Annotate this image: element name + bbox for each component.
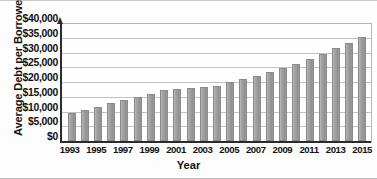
bar: [107, 103, 115, 141]
y-axis-tick-label: $0: [6, 131, 58, 142]
bar-slot: [197, 23, 210, 141]
bar-slot: [158, 23, 171, 141]
bar-slot: [210, 23, 223, 141]
y-axis-tick-label: $15,000: [6, 86, 58, 97]
bar: [147, 94, 155, 141]
bar-slot: [329, 23, 342, 141]
x-tick-slot: 2003: [196, 144, 209, 158]
y-axis-tick-label: $40,000: [6, 13, 58, 24]
bar: [226, 82, 234, 141]
bar-slot: [224, 23, 237, 141]
bar-slot: [65, 23, 78, 141]
bar: [81, 110, 89, 141]
x-tick-slot: 1993: [63, 144, 76, 158]
bar-slot: [184, 23, 197, 141]
x-tick-slot: 2005: [223, 144, 236, 158]
bar-slot: [171, 23, 184, 141]
bar-slot: [91, 23, 104, 141]
x-tick-slot: 2015: [356, 144, 369, 158]
bar: [187, 88, 195, 141]
bar: [160, 90, 168, 141]
bar: [332, 48, 340, 141]
y-axis-tick-label: $35,000: [6, 27, 58, 38]
x-axis-tick-label: 2015: [352, 144, 372, 155]
bar: [292, 64, 300, 141]
bar: [173, 89, 181, 141]
y-axis-tick-label: $30,000: [6, 42, 58, 53]
bar-slot: [316, 23, 329, 141]
x-tick-slot: 2009: [276, 144, 289, 158]
bar: [253, 76, 261, 141]
bar: [94, 107, 102, 142]
bar-slot: [237, 23, 250, 141]
y-axis-tick-label: $5,000: [6, 116, 58, 127]
y-axis-tick-labels: $40,000$35,000$30,000$25,000$20,000$15,0…: [6, 18, 58, 144]
bar-slot: [250, 23, 263, 141]
bar: [306, 59, 314, 141]
bar: [239, 79, 247, 141]
x-tick-slot: 2007: [249, 144, 262, 158]
x-tick-slot: 1995: [90, 144, 103, 158]
x-tick-slot: 1999: [143, 144, 156, 158]
bar-slot: [263, 23, 276, 141]
x-tick-slot: 2011: [302, 144, 315, 158]
bar-slot: [105, 23, 118, 141]
bar: [213, 86, 221, 141]
bar: [345, 43, 353, 141]
bar: [134, 97, 142, 141]
bar: [68, 113, 76, 141]
y-axis-tick-label: $10,000: [6, 101, 58, 112]
bar: [279, 68, 287, 141]
y-axis-tick-label: $20,000: [6, 72, 58, 83]
x-tick-slot: 1997: [116, 144, 129, 158]
bar: [358, 37, 366, 141]
chart-figure: Average Debt per Borrower $40,000$35,000…: [0, 0, 377, 179]
bar-slot: [131, 23, 144, 141]
bar: [200, 87, 208, 141]
bar-series: [62, 23, 372, 141]
x-axis-title: Year: [0, 159, 377, 171]
bar-slot: [343, 23, 356, 141]
bar-slot: [277, 23, 290, 141]
bar: [266, 72, 274, 141]
plot-area: [60, 23, 372, 143]
y-axis-arrow-icon: [57, 17, 63, 24]
bar-slot: [290, 23, 303, 141]
bar-slot: [303, 23, 316, 141]
bar-slot: [78, 23, 91, 141]
bar-slot: [118, 23, 131, 141]
bar: [319, 54, 327, 141]
y-axis-tick-label: $25,000: [6, 57, 58, 68]
x-tick-slot: 2013: [329, 144, 342, 158]
x-axis-tick-labels: 1993199519971999200120032005200720092011…: [60, 144, 372, 158]
bar-slot: [144, 23, 157, 141]
x-tick-slot: 2001: [169, 144, 182, 158]
bar: [120, 100, 128, 141]
bar-slot: [356, 23, 369, 141]
